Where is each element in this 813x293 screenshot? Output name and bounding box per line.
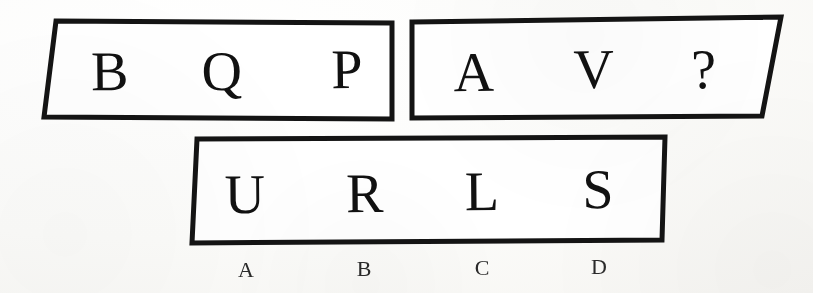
box-2-cell-1: A <box>453 41 495 104</box>
box-3-group: U R L S <box>192 137 665 243</box>
box-3-cell-1: U <box>224 163 265 225</box>
puzzle-figure: B Q P A V ? U R L S A B C D <box>0 0 813 293</box>
box-3-cell-4: S <box>582 158 614 220</box>
answer-option-c[interactable]: C <box>475 255 490 280</box>
box-1-cell-1: B <box>91 40 129 102</box>
answer-option-b[interactable]: B <box>357 256 372 281</box>
box-2-group: A V ? <box>412 17 781 118</box>
answer-option-d[interactable]: D <box>591 254 607 279</box>
box-1-cell-3: P <box>331 38 363 100</box>
answer-option-a[interactable]: A <box>238 257 254 282</box>
box-2-cell-3-question-mark: ? <box>691 38 717 100</box>
box-3-cell-3: L <box>464 160 499 222</box>
puzzle-canvas: B Q P A V ? U R L S A B C D <box>0 0 813 293</box>
box-2-cell-2: V <box>573 38 614 101</box>
box-3-cell-2: R <box>346 162 385 224</box>
answer-options-group: A B C D <box>238 254 607 282</box>
box-1-cell-2: Q <box>201 40 242 102</box>
box-1-group: B Q P <box>44 21 392 119</box>
